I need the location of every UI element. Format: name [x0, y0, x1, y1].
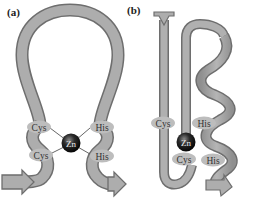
panel-a-loop-ribbon	[22, 10, 118, 125]
arrow-down-icon	[154, 12, 174, 25]
svg-text:Zn: Zn	[66, 139, 76, 149]
svg-text:His: His	[95, 123, 109, 133]
panel-a-cys-top: Cys	[27, 121, 51, 134]
panel-b-label: (b)	[127, 4, 141, 17]
svg-text:Zn: Zn	[181, 138, 191, 148]
panel-a: (a) Cys	[2, 6, 126, 196]
panel-a-his-top: His	[90, 121, 114, 134]
panel-b-cys-bottom: Cys	[172, 153, 196, 166]
svg-text:His: His	[206, 156, 220, 166]
panel-a-zinc-ion: Zn	[62, 134, 81, 153]
panel-a-label: (a)	[7, 6, 20, 19]
panel-b-zinc-ion: Zn	[177, 133, 196, 152]
svg-text:Cys: Cys	[34, 151, 49, 161]
svg-text:Cys: Cys	[32, 123, 47, 133]
panel-b-alpha-helix	[201, 36, 232, 196]
svg-text:His: His	[197, 119, 211, 129]
arrow-in-icon	[2, 170, 34, 194]
panel-b: (b) Cys His Cys	[127, 4, 232, 196]
panel-a-his-bottom: His	[90, 150, 114, 163]
svg-text:His: His	[95, 152, 109, 162]
arrow-out-icon	[108, 172, 126, 196]
panel-b-his-bottom: His	[201, 154, 225, 167]
panel-b-his-top: His	[192, 117, 216, 130]
svg-text:Cys: Cys	[177, 155, 192, 165]
panel-a-cys-bottom: Cys	[29, 149, 53, 162]
panel-b-cys-top: Cys	[151, 117, 175, 130]
svg-text:Cys: Cys	[156, 119, 171, 129]
zinc-finger-diagram: (a) Cys	[0, 0, 253, 208]
